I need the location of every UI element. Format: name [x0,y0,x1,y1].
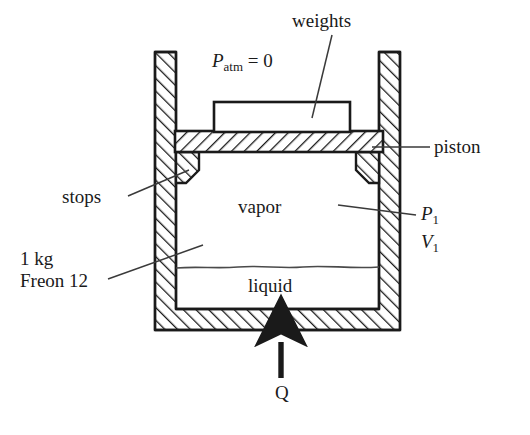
label-atmospheric-pressure: Patm = 0 [212,50,273,74]
piston [175,131,383,152]
patm-value: = 0 [248,50,273,71]
label-vapor-phase: vapor [238,196,281,218]
thermodynamics-piston-cylinder-figure: weights Patm = 0 piston stops vapor P1 V… [0,0,530,435]
liquid-surface-line [176,266,379,268]
volume-subscript: 1 [433,240,439,255]
label-substance-mass: 1 kgFreon 12 [20,248,88,292]
label-weights: weights [292,10,351,32]
substance-name: Freon 12 [20,270,88,291]
stop-ledge-right [356,152,379,183]
leader-p1 [338,205,416,215]
weight-block [214,102,350,132]
stop-ledge-left [176,152,199,183]
label-heat-transfer: Q [275,382,289,404]
label-stops: stops [62,186,101,208]
label-liquid-phase: liquid [248,275,292,297]
pressure-symbol: P [421,203,433,224]
patm-symbol: P [212,50,224,71]
pressure-subscript: 1 [433,212,439,227]
label-piston: piston [434,136,480,158]
patm-subscript: atm [224,59,243,74]
volume-symbol: V [421,231,433,252]
mass-value: 1 kg [20,248,53,269]
label-pressure-state-1: P1 [421,203,439,227]
label-volume-state-1: V1 [421,231,439,255]
